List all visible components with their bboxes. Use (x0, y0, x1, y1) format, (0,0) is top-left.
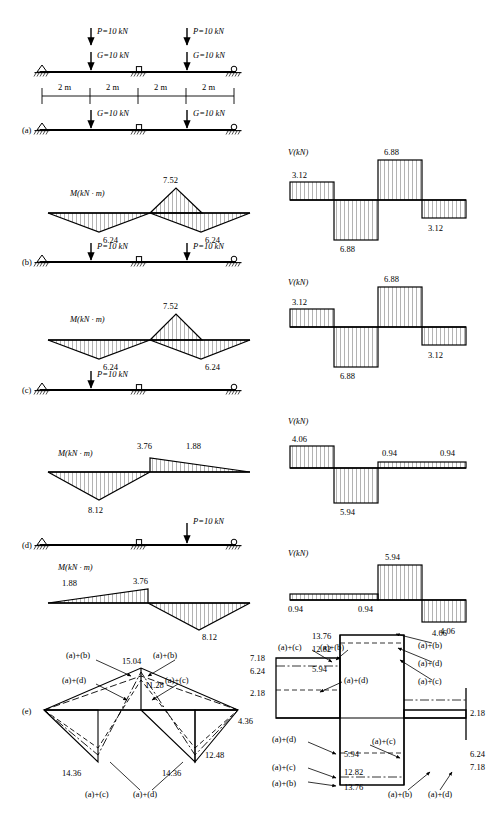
env-shear-right-2: 2.18 (470, 708, 485, 718)
shear-label-1: 3.12 (292, 297, 307, 307)
env-annot-ad-br: (a)+(d) (428, 789, 452, 799)
shear-bar-3 (422, 600, 466, 622)
dim-label-1: 2 m (58, 82, 71, 92)
shear-label-3: 0.94 (382, 448, 398, 458)
case-b-moment-diagram: M(kN · m) 7.52 6.24 6.24 (48, 301, 250, 372)
support-pin-left (34, 538, 50, 550)
shear-bar-2 (334, 200, 378, 240)
moment-lobe-left-neg (48, 213, 150, 232)
moment-axis-label: M(kN · m) (69, 188, 105, 198)
moment-peak-label: 7.52 (163, 301, 178, 311)
case-a-shear-diagram: V(kN) 3.12 6.88 6.88 3.12 (288, 147, 466, 254)
env-annot-ad-bl: (a)+(d) (272, 734, 296, 744)
shear-bar-2 (334, 468, 378, 503)
shear-label-1: 4.06 (292, 434, 307, 444)
leader-ad-bl (308, 742, 336, 754)
moment-tail-label: 1.88 (186, 441, 201, 451)
moment-lobe-right-neg (150, 340, 250, 359)
load-label-g-right: G=10 kN (193, 108, 226, 118)
shear-label-4: 3.12 (428, 350, 443, 360)
leader-ab-br (408, 772, 430, 790)
env-annot-ad-tl: (a)+(d) (344, 675, 368, 685)
envelope-right-label: 4.36 (238, 716, 253, 726)
support-pin-left (34, 255, 50, 267)
env-shear-right-1: 4.06 (432, 628, 447, 638)
case-d-moment-diagram: M(kN · m) 1.88 3.76 8.12 (48, 562, 250, 642)
env-annot-ab-br: (a)+(b) (388, 789, 412, 799)
moment-peak-label: 3.76 (137, 441, 152, 451)
shear-bar-3 (378, 462, 466, 468)
envelope-second-label: 11.28 (145, 680, 164, 690)
case-label-c: (c) (22, 385, 32, 395)
shear-bar-1 (290, 446, 334, 468)
moment-right-label: 6.24 (205, 362, 221, 372)
leader-ab-right (148, 660, 175, 676)
moment-lobe-right-neg (148, 603, 250, 630)
shear-label-2: 5.94 (340, 507, 356, 517)
envelope-annot-ac: (a)+(c) (165, 675, 189, 685)
shear-bar-1 (290, 182, 334, 200)
case-c-shear-diagram: V(kN) 4.06 5.94 0.94 0.94 (288, 416, 466, 517)
moment-peak-label: 7.52 (163, 175, 178, 185)
case-c-moment-diagram: M(kN · m) 3.76 1.88 8.12 (48, 441, 250, 515)
load-label-p: P=10 kN (192, 516, 225, 526)
env-shear-left-3: 2.18 (250, 688, 265, 698)
env-shear-left-2: 6.24 (250, 666, 266, 676)
dim-label-4: 2 m (202, 82, 215, 92)
envelope-tri-right (141, 710, 195, 762)
figure-canvas: P=10 kN G=10 kN P=10 kN G=10 kN 2 m 2 m … (0, 0, 494, 823)
moment-lobe-left-neg (48, 472, 150, 500)
envelope-peak-label: 15.04 (122, 656, 142, 666)
support-pin-left (34, 123, 50, 135)
moment-lobe-right-neg (150, 213, 250, 232)
load-label-g-right: G=10 kN (193, 50, 226, 60)
env-shear-br-1: 6.24 (470, 749, 486, 759)
case-label-a: (a) (22, 125, 32, 135)
shear-label-2: 6.88 (340, 371, 355, 381)
env-shear-left-1: 7.18 (250, 653, 265, 663)
moment-min-label: 8.12 (202, 632, 217, 642)
load-label-p-right: P=10 kN (192, 241, 225, 251)
case-label-b: (b) (22, 257, 32, 267)
shear-bar-2 (378, 565, 422, 600)
shear-label-2: 6.88 (340, 244, 355, 254)
moment-lobe-mid-pos (150, 188, 202, 213)
moment-axis-label: M(kN · m) (69, 314, 105, 324)
leader-ab-bl (308, 782, 336, 786)
env-shear-mid-3: 5.94 (312, 664, 328, 674)
envelope-tri-left (44, 710, 98, 762)
engineering-figure: P=10 kN G=10 kN P=10 kN G=10 kN 2 m 2 m … (0, 0, 494, 823)
dim-label-3: 2 m (154, 82, 167, 92)
load-label-p-left: P=10 kN (96, 241, 129, 251)
moment-min-label: 8.12 (88, 505, 103, 515)
case-d-beam: (d) P=10 kN (22, 516, 242, 550)
envelope-moment-diagram: (e) (a)+(b) (a)+(b) (a)+(d) (a)+(c) (a)+… (22, 650, 253, 799)
env-shear-bl-1: 5.94 (344, 749, 360, 759)
moment-lobe-left-pos (48, 589, 148, 603)
envelope-right-min-label: 14.36 (162, 768, 181, 778)
shear-bar-3 (378, 287, 422, 327)
shear-bar-4 (422, 200, 466, 218)
leader-ad-tl (320, 682, 342, 692)
shear-bar-2 (334, 327, 378, 367)
envelope-annot-ac-bottom: (a)+(c) (85, 789, 109, 799)
leader-ac-bl (308, 768, 336, 778)
shear-label-4: 0.94 (440, 448, 456, 458)
shear-bar-1 (290, 594, 378, 600)
dimension-line: 2 m 2 m 2 m 2 m (42, 82, 234, 104)
env-annot-ad-tr: (a)+(d) (418, 658, 442, 668)
shear-axis-label: V(kN) (288, 548, 308, 558)
envelope-annot-ab-right: (a)+(b) (153, 650, 177, 660)
envelope-annot-ab-left: (a)+(b) (66, 650, 90, 660)
leader-ac-bottom (110, 762, 140, 790)
shear-axis-label: V(kN) (288, 277, 308, 287)
moment-lobe-mid-pos (150, 314, 202, 340)
envelope-shear-diagram: 7.18 6.24 2.18 13.76 12.82 5.94 4.06 2.1… (250, 628, 486, 799)
moment-peak-label: 3.76 (133, 576, 148, 586)
moment-axis-label: M(kN · m) (57, 562, 93, 572)
case-a-beam: (a) G=10 kN G=10 kN (22, 108, 242, 135)
env-annot-ac-br: (a)+(c) (372, 736, 396, 746)
shear-bar-4 (422, 327, 466, 345)
envelope-left-min-label: 14.36 (62, 768, 81, 778)
shear-bar-1 (290, 309, 334, 327)
